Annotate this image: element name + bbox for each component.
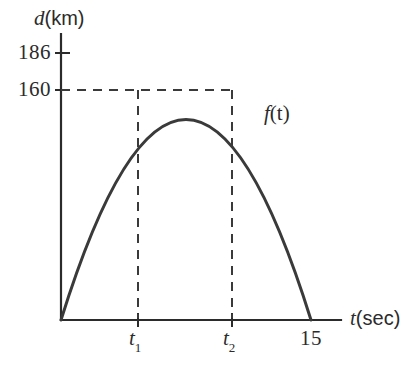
curve-f-of-t [61, 120, 311, 321]
curve-label-argument: (t) [270, 101, 290, 125]
y-tick-label-186: 186 [18, 42, 51, 63]
y-axis-label: d(km) [34, 8, 84, 29]
y-axis-unit: (km) [45, 7, 85, 29]
x-tick-label-t2: t2 [223, 328, 235, 351]
x-tick-label-t1-base: t [129, 326, 135, 350]
y-tick-label-160: 160 [18, 79, 51, 100]
x-tick-label-t1-subscript: 1 [135, 340, 142, 355]
x-tick-label-t1: t1 [129, 328, 141, 351]
y-axis-variable: d [34, 6, 45, 30]
x-tick-label-15: 15 [300, 328, 322, 349]
curve-label-f-of-t: f(t) [264, 103, 290, 124]
x-tick-label-t2-subscript: 2 [229, 340, 236, 355]
parabola-distance-time-figure: d(km) 186 160 f(t) t1 t2 15 t(sec) [0, 0, 420, 370]
x-tick-label-t2-base: t [223, 326, 229, 350]
x-axis-unit: (sec) [356, 307, 400, 329]
x-axis-label: t(sec) [350, 308, 400, 329]
